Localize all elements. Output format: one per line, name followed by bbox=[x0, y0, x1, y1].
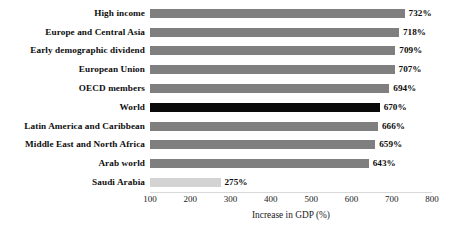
category-label: Middle East and North Africa bbox=[25, 140, 145, 149]
x-tick-label: 500 bbox=[304, 195, 318, 204]
category-label: Saudi Arabia bbox=[92, 178, 145, 187]
bar-value-label: 707% bbox=[399, 65, 422, 74]
bar-value-label: 694% bbox=[393, 84, 416, 93]
x-tick-label: 700 bbox=[385, 195, 399, 204]
bar bbox=[150, 178, 221, 187]
bar-row: High income732% bbox=[150, 4, 432, 23]
x-axis-line bbox=[150, 192, 432, 193]
bar-row: European Union707% bbox=[150, 60, 432, 79]
x-tick-label: 600 bbox=[345, 195, 359, 204]
bar bbox=[150, 159, 369, 168]
bar-row: Middle East and North Africa659% bbox=[150, 136, 432, 155]
category-label: High income bbox=[94, 9, 145, 18]
category-label: European Union bbox=[79, 65, 145, 74]
bar-row: Early demographic dividend709% bbox=[150, 42, 432, 61]
bar-row: World670% bbox=[150, 98, 432, 117]
category-label: World bbox=[120, 103, 145, 112]
category-label: Europe and Central Asia bbox=[45, 28, 145, 37]
bar-value-label: 718% bbox=[403, 28, 426, 37]
category-label: Latin America and Caribbean bbox=[24, 122, 145, 131]
gdp-increase-bar-chart: High income732%Europe and Central Asia71… bbox=[0, 0, 457, 243]
bar-value-label: 732% bbox=[409, 9, 432, 18]
bar bbox=[150, 122, 378, 131]
bar-value-label: 670% bbox=[384, 103, 407, 112]
x-axis-tick-labels: 100200300400500600700800 bbox=[150, 195, 432, 209]
bar bbox=[150, 28, 399, 37]
bar bbox=[150, 46, 395, 55]
category-label: Early demographic dividend bbox=[30, 46, 145, 55]
bar-value-label: 666% bbox=[382, 122, 405, 131]
bar bbox=[150, 65, 395, 74]
bar-row: Latin America and Caribbean666% bbox=[150, 117, 432, 136]
bar-row: Arab world643% bbox=[150, 154, 432, 173]
category-label: OECD members bbox=[79, 84, 145, 93]
bar bbox=[150, 140, 375, 149]
x-tick-label: 200 bbox=[184, 195, 198, 204]
plot-area: High income732%Europe and Central Asia71… bbox=[150, 4, 432, 192]
x-tick-label: 800 bbox=[425, 195, 439, 204]
x-tick-label: 300 bbox=[224, 195, 238, 204]
bar-value-label: 659% bbox=[379, 140, 402, 149]
bar bbox=[150, 9, 405, 18]
bar-value-label: 709% bbox=[399, 46, 422, 55]
bar bbox=[150, 103, 380, 112]
bar-value-label: 643% bbox=[373, 159, 396, 168]
x-tick-label: 100 bbox=[143, 195, 157, 204]
x-tick-label: 400 bbox=[264, 195, 278, 204]
x-axis-title: Increase in GDP (%) bbox=[150, 211, 432, 220]
bar-row: OECD members694% bbox=[150, 79, 432, 98]
category-label: Arab world bbox=[98, 159, 145, 168]
bar-row: Saudi Arabia275% bbox=[150, 173, 432, 192]
bar-value-label: 275% bbox=[225, 178, 248, 187]
bar-row: Europe and Central Asia718% bbox=[150, 23, 432, 42]
bar bbox=[150, 84, 389, 93]
